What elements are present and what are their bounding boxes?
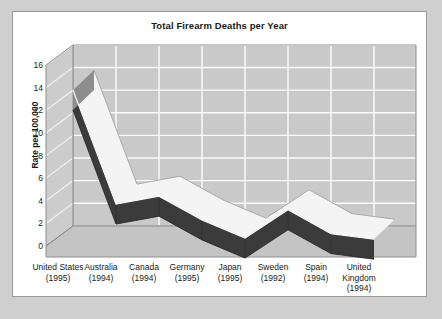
y-tick-16: 16 [21, 60, 43, 70]
plot-svg [13, 12, 428, 298]
y-tick-8: 8 [21, 151, 43, 161]
chart-card: Total Firearm Deaths per Year [12, 11, 427, 297]
y-tick-10: 10 [21, 128, 43, 138]
y-tick-6: 6 [21, 173, 43, 183]
x-tick-united-kingdom: United Kingdom (1994) [331, 262, 387, 294]
y-tick-0: 0 [21, 241, 43, 251]
plot-area: Rate per 100,000 16 14 12 10 8 6 4 2 0 U… [13, 12, 428, 298]
y-tick-4: 4 [21, 196, 43, 206]
y-tick-12: 12 [21, 105, 43, 115]
y-tick-14: 14 [21, 83, 43, 93]
y-tick-2: 2 [21, 218, 43, 228]
left-side-wall [46, 45, 73, 246]
chart-figure: Total Firearm Deaths per Year [0, 0, 442, 319]
